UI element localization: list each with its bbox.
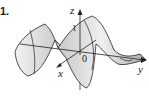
x-axis-label: x — [58, 68, 63, 79]
z-axis-label: z — [70, 5, 74, 16]
surface-plot — [0, 0, 149, 111]
y-axis-label: y — [138, 64, 143, 75]
figure-number: 1. — [0, 6, 9, 17]
origin-label: 0 — [82, 54, 87, 64]
z-tick-label: 1 — [72, 24, 77, 33]
z-axis-arrow — [78, 9, 83, 15]
